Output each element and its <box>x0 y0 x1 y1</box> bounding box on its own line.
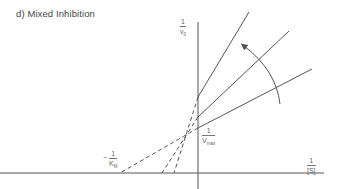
y-intercept-label: 1 Vmax <box>202 127 215 147</box>
x-intercept-sign: − <box>103 154 107 161</box>
y-axis-label: 1 v0 <box>180 18 186 38</box>
no-inhibitor-line <box>198 69 312 128</box>
steep-inhibitor-line <box>198 12 249 97</box>
lineweaver-burk-plot <box>0 0 343 189</box>
middle-extrapolation <box>162 117 198 173</box>
x-intercept-label: 1 KM <box>109 150 117 170</box>
x-axis-label: 1 [S] <box>307 157 316 174</box>
